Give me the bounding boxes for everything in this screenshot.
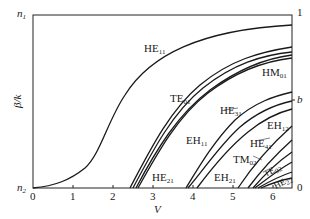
label-eh11: EH11: [186, 135, 207, 150]
label-he11: HE11: [144, 43, 165, 58]
x-tick-6: 6: [270, 191, 276, 202]
label-eh12: EH12: [267, 120, 289, 135]
label-hm01: HM01: [262, 67, 287, 82]
label-eh21: EH21: [214, 172, 236, 187]
y-axis-label: β/k: [12, 95, 23, 108]
x-axis-label: V: [154, 204, 161, 215]
label-he41: HE41: [250, 138, 272, 153]
label-tm02: TM02: [233, 154, 257, 169]
x-tick-2: 2: [110, 191, 116, 202]
label-he21: HE21: [152, 172, 174, 187]
label-he31: HE31: [220, 105, 242, 120]
label-te01: TE01: [170, 93, 190, 108]
x-tick-3: 3: [150, 191, 156, 202]
y-left-bottom-label: n2: [17, 182, 26, 197]
y-left-top-label: n1: [17, 8, 26, 23]
y-right-bottom-label: 0: [297, 182, 303, 193]
x-tick-4: 4: [190, 191, 196, 202]
x-tick-5: 5: [230, 191, 236, 202]
x-tick-1: 1: [70, 191, 76, 202]
y-right-top-label: 1: [297, 7, 303, 18]
y-right-mid-label: b: [297, 94, 303, 105]
x-tick-0: 0: [30, 191, 36, 202]
